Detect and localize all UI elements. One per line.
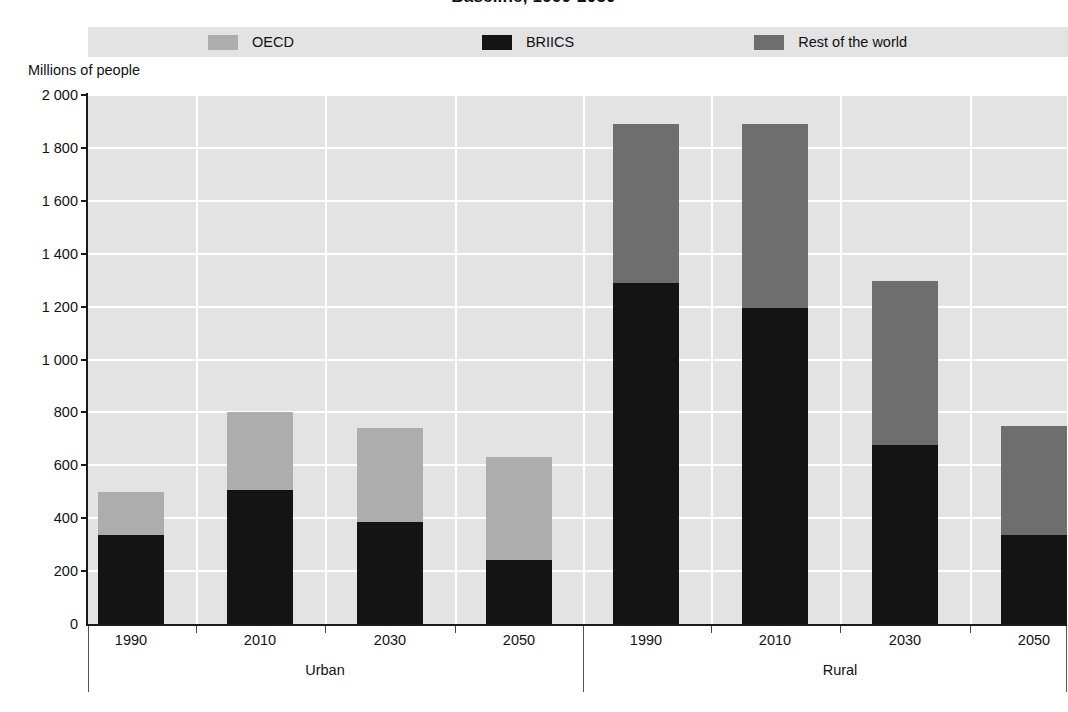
x-tick-label-urban-1990: 1990 — [115, 632, 147, 648]
y-tick-label: 400 — [4, 510, 78, 526]
gridline-horizontal — [88, 147, 1067, 149]
bar-rural-1990 — [613, 124, 679, 624]
legend-item-oecd: OECD — [208, 34, 294, 50]
y-tick-label: 600 — [4, 457, 78, 473]
bar-rural-2010 — [742, 124, 808, 624]
gridline-vertical — [840, 95, 842, 624]
bar-segment-briics — [742, 308, 808, 624]
gridline-vertical — [455, 95, 457, 624]
group-separator — [583, 626, 584, 692]
y-tick-label: 1 600 — [4, 193, 78, 209]
bar-urban-1990 — [98, 492, 164, 624]
x-axis-labels: 19902010203020501990201020302050 — [0, 632, 1067, 658]
bar-segment-rest-of-the-world — [872, 281, 938, 445]
x-tick-label-rural-1990: 1990 — [630, 632, 662, 648]
bar-segment-oecd — [486, 457, 552, 560]
chart-legend: OECD BRIICS Rest of the world — [88, 27, 1068, 57]
bar-urban-2030 — [357, 428, 423, 624]
legend-label-briics: BRIICS — [526, 34, 574, 50]
bar-segment-oecd — [357, 428, 423, 522]
group-separator — [88, 626, 89, 692]
x-tick-label-urban-2010: 2010 — [244, 632, 276, 648]
gridline-horizontal — [88, 94, 1067, 96]
legend-item-briics: BRIICS — [482, 34, 574, 50]
gridline-vertical — [196, 95, 198, 624]
y-tick-mark — [81, 464, 88, 466]
chart-title: Baseline, 1990-2050 — [0, 0, 1067, 7]
group-separator — [1066, 626, 1067, 692]
x-tick-mark — [325, 626, 326, 633]
legend-label-rest-of-the-world: Rest of the world — [798, 34, 907, 50]
x-tick-label-rural-2010: 2010 — [759, 632, 791, 648]
plot-area — [88, 95, 1067, 624]
y-tick-mark — [81, 94, 88, 96]
bar-segment-briics — [227, 490, 293, 624]
y-tick-label: 1 200 — [4, 299, 78, 315]
bar-rural-2030 — [872, 281, 938, 624]
y-tick-mark — [81, 359, 88, 361]
bar-segment-briics — [1001, 535, 1067, 624]
y-tick-mark — [81, 200, 88, 202]
bar-segment-rest-of-the-world — [613, 124, 679, 283]
y-tick-mark — [81, 306, 88, 308]
bar-segment-briics — [486, 560, 552, 624]
y-tick-label: 800 — [4, 404, 78, 420]
bar-segment-briics — [613, 283, 679, 624]
gridline-vertical — [325, 95, 327, 624]
y-tick-mark — [81, 570, 88, 572]
x-tick-mark — [196, 626, 197, 633]
legend-label-oecd: OECD — [252, 34, 294, 50]
bar-segment-oecd — [98, 492, 164, 535]
bar-urban-2010 — [227, 412, 293, 624]
y-tick-label: 1 400 — [4, 246, 78, 262]
bar-segment-briics — [98, 535, 164, 624]
gridline-vertical — [711, 95, 713, 624]
y-tick-mark — [81, 253, 88, 255]
bar-rural-2050 — [1001, 426, 1067, 624]
gridline-vertical — [583, 95, 585, 624]
x-axis-line — [86, 624, 1067, 626]
y-tick-mark — [81, 517, 88, 519]
legend-swatch-briics — [482, 35, 512, 50]
y-tick-label: 1 000 — [4, 352, 78, 368]
bar-urban-2050 — [486, 457, 552, 624]
x-tick-mark — [970, 626, 971, 633]
y-tick-label: 1 800 — [4, 140, 78, 156]
legend-item-rest-of-the-world: Rest of the world — [754, 34, 907, 50]
gridline-vertical — [970, 95, 972, 624]
x-tick-label-urban-2050: 2050 — [503, 632, 535, 648]
x-tick-mark — [455, 626, 456, 633]
gridline-horizontal — [88, 253, 1067, 255]
y-tick-label: 200 — [4, 563, 78, 579]
x-tick-mark — [840, 626, 841, 633]
legend-swatch-oecd — [208, 35, 238, 50]
bar-segment-briics — [872, 445, 938, 624]
bar-segment-briics — [357, 522, 423, 624]
gridline-horizontal — [88, 200, 1067, 202]
x-tick-label-rural-2030: 2030 — [889, 632, 921, 648]
bar-segment-rest-of-the-world — [742, 124, 808, 308]
group-label-rural: Rural — [823, 662, 858, 678]
bar-segment-rest-of-the-world — [1001, 426, 1067, 535]
x-tick-label-rural-2050: 2050 — [1018, 632, 1050, 648]
bar-segment-oecd — [227, 412, 293, 489]
x-tick-mark — [711, 626, 712, 633]
group-labels: UrbanRural — [0, 662, 1067, 686]
y-tick-mark — [81, 411, 88, 413]
group-label-urban: Urban — [305, 662, 345, 678]
x-tick-label-urban-2030: 2030 — [374, 632, 406, 648]
y-tick-mark — [81, 147, 88, 149]
legend-swatch-rest-of-the-world — [754, 35, 784, 50]
y-tick-label: 2 000 — [4, 87, 78, 103]
y-tick-label: 0 — [4, 616, 78, 632]
y-axis-title: Millions of people — [28, 62, 140, 78]
